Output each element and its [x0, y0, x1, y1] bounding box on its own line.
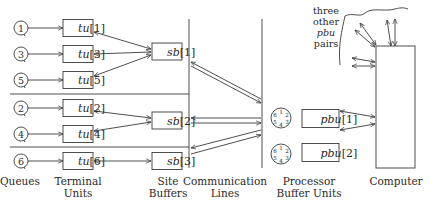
label-communication-lines-2: Lines — [211, 187, 240, 199]
comm-line-3 — [191, 130, 261, 154]
svg-text:6: 6 — [273, 148, 277, 154]
svg-text:other: other — [313, 16, 339, 27]
site-buffer-1: sb[1] — [152, 43, 195, 60]
label-terminal-units-2: Units — [64, 187, 93, 199]
site-buffer-3: sb[3] — [152, 153, 195, 170]
queue-3: 3 — [14, 47, 28, 62]
svg-text:5: 5 — [273, 119, 277, 125]
label-terminal-units: Terminal — [54, 175, 102, 187]
svg-text:2: 2 — [285, 148, 289, 154]
computer-box — [376, 46, 415, 168]
svg-text:3: 3 — [285, 119, 289, 125]
svg-text:sb[3]: sb[3] — [167, 155, 195, 168]
svg-text:pbu: pbu — [317, 27, 335, 38]
svg-text:pbu[2]: pbu[2] — [321, 147, 358, 160]
svg-text:pbu[1]: pbu[1] — [321, 113, 358, 126]
queue-label: 4 — [18, 129, 24, 140]
svg-text:4: 4 — [279, 158, 283, 164]
tu-sb-link — [94, 32, 151, 49]
svg-text:pairs: pairs — [314, 38, 339, 49]
svg-text:5: 5 — [273, 155, 277, 161]
label-queues: Queues — [0, 175, 40, 187]
tu-sb-link — [94, 122, 151, 131]
comm-line-1 — [191, 62, 261, 103]
terminal-unit-1: tu[1] — [63, 20, 105, 37]
comm-line-2 — [191, 118, 261, 123]
svg-text:tu[6]: tu[6] — [78, 155, 105, 168]
label-processor-buffer-units-2: Buffer Units — [276, 187, 341, 199]
svg-text:4: 4 — [279, 122, 283, 128]
svg-text:tu[3]: tu[3] — [78, 48, 105, 61]
clock-dial-1: 1 2 3 4 5 6 — [271, 108, 291, 128]
site-buffer-2: sb[2] — [152, 112, 195, 129]
annotation-other-pbu-pairs: three other pbu pairs — [313, 5, 339, 49]
queue-label: 5 — [18, 75, 24, 86]
queue-1: 1 — [14, 21, 28, 36]
queue-label: 1 — [18, 23, 24, 34]
queue-6: 6 — [14, 154, 28, 169]
svg-text:tu[1]: tu[1] — [78, 22, 105, 35]
queue-5: 5 — [14, 73, 28, 88]
svg-text:tu[2]: tu[2] — [78, 102, 105, 115]
svg-text:1: 1 — [279, 109, 283, 115]
label-communication-lines: Communication — [183, 175, 267, 187]
clock-dial-2: 1 2 3 4 5 6 — [271, 144, 291, 164]
processor-buffer-unit-2: pbu[2] — [302, 144, 357, 162]
terminal-unit-4: tu[4] — [63, 126, 105, 143]
queue-label: 6 — [18, 156, 24, 167]
label-computer: Computer — [369, 175, 423, 187]
label-site-buffers-2: Buffers — [149, 187, 188, 199]
svg-text:1: 1 — [279, 145, 283, 151]
label-processor-buffer-units: Processor — [283, 175, 337, 187]
queue-label: 2 — [18, 103, 24, 114]
network-diagram: 1 3 5 2 4 6 tu[1] tu[3] tu[5] — [0, 0, 430, 209]
svg-text:2: 2 — [285, 112, 289, 118]
terminal-unit-2: tu[2] — [63, 100, 105, 117]
svg-text:sb[2]: sb[2] — [167, 115, 195, 128]
svg-text:6: 6 — [273, 112, 277, 118]
label-site-buffers: Site — [158, 175, 179, 187]
svg-text:three: three — [313, 5, 339, 16]
queue-label: 3 — [18, 49, 24, 60]
queue-2: 2 — [14, 101, 28, 116]
queue-4: 4 — [14, 127, 28, 142]
svg-text:3: 3 — [285, 155, 289, 161]
svg-text:tu[5]: tu[5] — [78, 74, 105, 87]
svg-text:sb[1]: sb[1] — [167, 46, 195, 59]
